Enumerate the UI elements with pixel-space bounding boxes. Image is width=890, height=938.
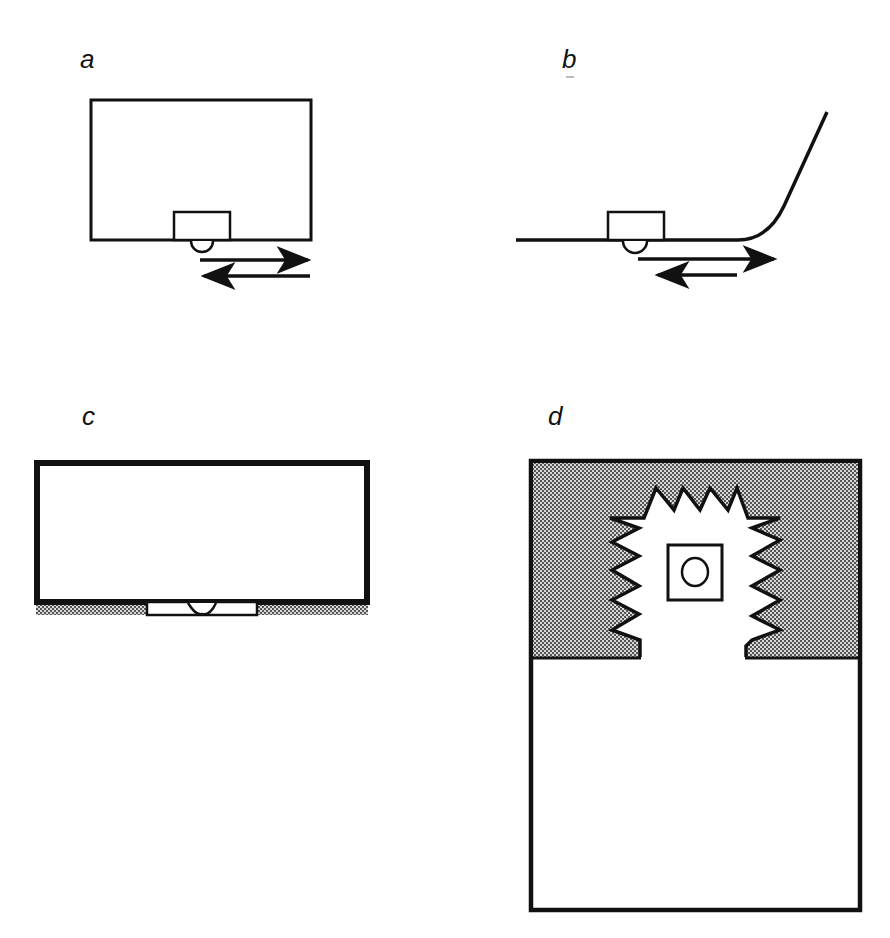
panel-d: d	[531, 401, 860, 910]
inner-circle	[682, 558, 708, 586]
slider-block	[174, 212, 230, 240]
panel-label-c: c	[82, 401, 95, 431]
panel-b: b	[516, 44, 827, 275]
slider-block	[608, 212, 664, 240]
panel-label-a: a	[80, 44, 94, 74]
panel-label-b: b	[562, 44, 576, 74]
panel-a: a	[80, 44, 311, 276]
contact-bump	[623, 241, 647, 253]
figure-canvas: a b c d	[0, 0, 890, 938]
panel-label-d: d	[548, 401, 564, 431]
panel-c: c	[36, 401, 368, 615]
surface-curve	[516, 112, 827, 240]
contact-bump	[191, 241, 213, 252]
box-outline	[37, 463, 367, 602]
